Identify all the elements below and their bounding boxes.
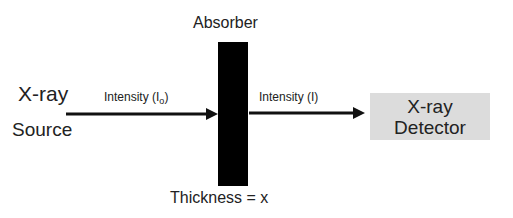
incident-intensity-label: Intensity (Io): [104, 90, 168, 106]
absorber-label: Absorber: [193, 14, 258, 32]
incident-arrow: [66, 108, 218, 120]
transmitted-intensity-label: Intensity (I): [259, 90, 318, 104]
detector-label-line1: X-ray: [370, 96, 490, 117]
absorber-block: [218, 42, 248, 186]
source-label-line1: X-ray: [18, 82, 68, 106]
detector-label-line2: Detector: [370, 117, 490, 138]
thickness-label: Thickness = x: [170, 189, 268, 207]
incident-close: ): [164, 90, 168, 104]
transmitted-arrow: [249, 107, 365, 119]
detector-box: X-ray Detector: [370, 93, 490, 140]
incident-intensity-text: Intensity (I: [104, 90, 159, 104]
source-label-line2: Source: [12, 119, 72, 141]
